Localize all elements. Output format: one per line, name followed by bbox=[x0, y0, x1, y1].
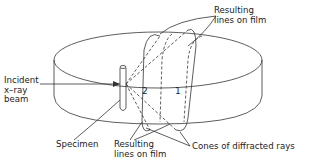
label-cones: Cones of diffracted rays bbox=[192, 142, 295, 152]
cone-2-dashed bbox=[126, 34, 172, 130]
specimen-rod-top bbox=[120, 66, 126, 69]
cone-number-2: 2 bbox=[142, 86, 148, 96]
cylinder-top-ellipse bbox=[54, 32, 262, 88]
label-resulting-lines-top: Resulting lines on film bbox=[214, 6, 266, 25]
cylinder-bottom-edge bbox=[54, 96, 262, 124]
cone-1-dashed bbox=[126, 30, 202, 130]
label-incident-beam: Incident x–ray beam bbox=[4, 76, 39, 105]
cone-1-outline bbox=[176, 29, 196, 130]
label-resulting-lines-bottom: Resulting lines on film bbox=[114, 140, 166, 159]
specimen-rod bbox=[120, 68, 126, 111]
cone-number-1: 1 bbox=[175, 86, 181, 96]
leader-resulting-lines-top-a bbox=[160, 16, 216, 34]
leader-resulting-lines-top-b bbox=[188, 16, 216, 46]
label-specimen: Specimen bbox=[56, 140, 98, 150]
leader-specimen bbox=[74, 100, 120, 140]
